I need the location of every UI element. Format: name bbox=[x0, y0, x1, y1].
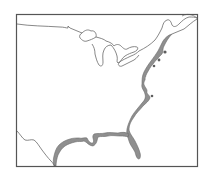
map-background bbox=[0, 0, 209, 186]
map-figure bbox=[0, 0, 209, 186]
map-canvas bbox=[0, 0, 209, 186]
coastal-band-dark-spot bbox=[158, 59, 161, 62]
coastal-band-dark-spot bbox=[163, 50, 166, 53]
coastal-band-dark-spot bbox=[151, 95, 154, 98]
coastal-band-dark-spot bbox=[153, 65, 156, 68]
coastal-band-dark-spot bbox=[146, 77, 149, 80]
